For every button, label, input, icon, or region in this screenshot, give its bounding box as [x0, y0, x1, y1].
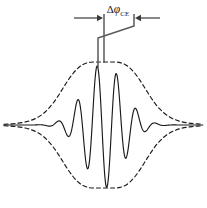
envelope-upper-curve — [4, 62, 203, 124]
carrier-wave-curve — [4, 66, 203, 187]
phase-offset-label: ΔφCE — [98, 4, 138, 18]
phase-annotation-group — [74, 14, 160, 67]
arrow-left-icon — [135, 15, 160, 21]
delta-symbol: Δ — [107, 3, 114, 15]
pulse-waveform-plot — [0, 0, 207, 208]
carrier-envelope-phase-figure: ΔφCE — [0, 0, 207, 208]
ce-subscript: CE — [120, 10, 129, 18]
